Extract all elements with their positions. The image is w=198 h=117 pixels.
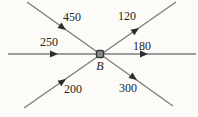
flow-junction-diagram: 450 120 250 180 200 300 B (0, 0, 198, 117)
junction-node (97, 51, 104, 58)
lower-left-value-label: 200 (64, 82, 82, 96)
junction-label: B (96, 59, 104, 73)
diagram-canvas: 450 120 250 180 200 300 B (0, 0, 198, 117)
right-value-label: 180 (133, 39, 151, 53)
upper-right-value-label: 120 (118, 9, 136, 23)
lower-right-value-label: 300 (119, 81, 137, 95)
left-value-label: 250 (40, 35, 58, 49)
upper-left-value-label: 450 (63, 10, 81, 24)
